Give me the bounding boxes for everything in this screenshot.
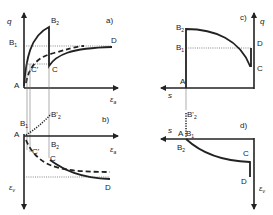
panel-b: B'2 B1 b) A B2 εa C' C D εv <box>9 110 118 209</box>
c-prime-label: C' <box>31 65 39 74</box>
volumetric-strain-label: εv <box>9 183 16 193</box>
loose-curve <box>26 140 110 172</box>
panel-b-label: b) <box>102 115 109 124</box>
stress-strain-diagram: q a) B2 B1 D C' C A εa B'2 B1 b) A B2 εa… <box>0 0 273 215</box>
q-label: q <box>7 17 12 26</box>
panel-a: q a) B2 B1 D C' C A εa <box>7 13 118 105</box>
a-label: A <box>14 130 20 139</box>
b2-prime-label: B'2 <box>51 110 61 120</box>
strain-label: εa <box>110 95 117 105</box>
b1-label: B1 <box>9 38 17 48</box>
panel-a-label: a) <box>106 16 113 25</box>
c-prime-label: C' <box>32 147 40 156</box>
panel-c: B2 B1 c) q D C A s <box>161 13 265 100</box>
c-label: C <box>52 65 58 74</box>
c-label: C <box>243 149 249 158</box>
b2-label: B2 <box>51 140 59 150</box>
volumetric-strain-label: εv <box>259 184 266 194</box>
c-label: C <box>257 64 263 73</box>
a-label: A <box>178 129 184 138</box>
s-label: s <box>168 126 172 135</box>
a-label: A <box>14 81 20 90</box>
d-label: D <box>105 183 111 192</box>
d-label: D <box>241 177 247 186</box>
panel-d-label: d) <box>240 121 247 130</box>
b1-label: B1 <box>176 43 184 53</box>
b2-prime-label: B'2 <box>187 110 197 120</box>
b2-label: B2 <box>51 16 59 26</box>
c-label: C <box>50 154 56 163</box>
d-label: D <box>257 39 263 48</box>
panel-d: B'2 d) s A B1 B2 C D εv <box>161 110 266 209</box>
a-label: A <box>180 77 186 86</box>
strain-label: εa <box>110 145 117 155</box>
dense-curve <box>24 27 112 86</box>
volumetric-path <box>186 139 250 177</box>
dense-curve <box>50 160 110 179</box>
s-label: s <box>168 91 172 100</box>
b2-label: B2 <box>176 23 184 33</box>
q-label: q <box>260 17 265 26</box>
b2-label: B2 <box>177 143 185 153</box>
d-label: D <box>111 36 117 45</box>
panel-c-label: c) <box>240 13 247 22</box>
stress-path <box>186 29 251 88</box>
b1-label: B1 <box>186 129 194 139</box>
